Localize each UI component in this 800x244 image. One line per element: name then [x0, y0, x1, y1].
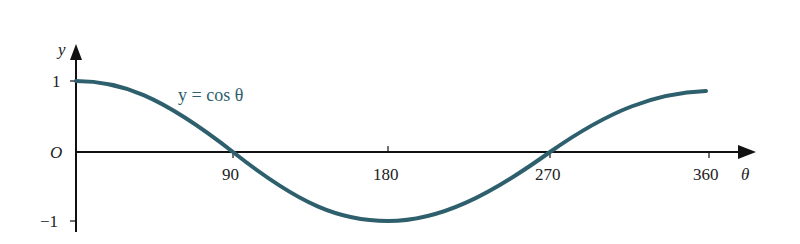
- cosine-graph: y 1 O −1 90 180 270 360 θ y = cos θ: [0, 0, 800, 244]
- x-tick-label-180: 180: [373, 165, 399, 184]
- x-axis-label: θ: [741, 165, 749, 184]
- x-tick-label-360: 360: [693, 165, 719, 184]
- origin-label: O: [50, 143, 62, 162]
- y-tick-label-neg1: −1: [40, 212, 58, 231]
- y-axis-label: y: [56, 40, 66, 59]
- x-axis-arrow-icon: [738, 145, 756, 159]
- y-tick-label-1: 1: [52, 72, 61, 91]
- x-tick-label-270: 270: [535, 165, 561, 184]
- y-axis-arrow-icon: [70, 44, 82, 60]
- curve-label: y = cos θ: [178, 85, 243, 105]
- x-tick-label-90: 90: [222, 165, 239, 184]
